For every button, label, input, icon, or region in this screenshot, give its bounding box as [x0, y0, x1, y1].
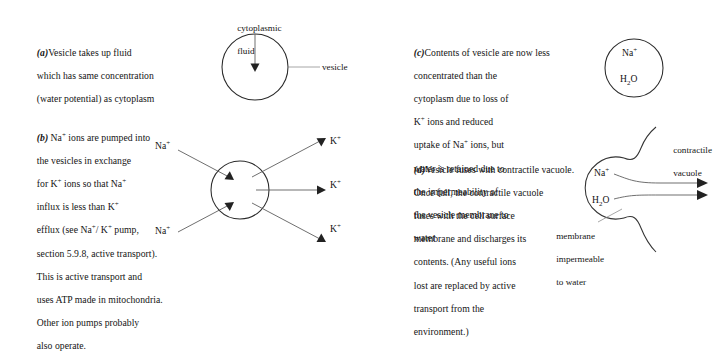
sodium-discharge-arrow-head: [697, 178, 708, 188]
panel-d-line-6: lost are replaced by active: [414, 280, 516, 291]
panel-d-line-8: environment.): [414, 326, 469, 337]
vacuole-membrane-upper: [624, 127, 656, 160]
water-discharge-arrow-shaft: [614, 195, 700, 199]
water-discharge-arrow-head: [697, 190, 708, 200]
panel-d-line-7: transport from the: [414, 303, 484, 314]
sodium-discharge-arrow-shaft: [614, 174, 700, 183]
panel-b-line-7: This is active transport and: [37, 271, 142, 282]
panel-b-line-8: uses ATP made in mitochondria.: [37, 294, 163, 305]
panel-b-line-10: also operate.: [37, 340, 86, 351]
panel-b-line-9: Other ion pumps probably: [37, 317, 139, 328]
membrane-label-line-3: to water: [556, 277, 586, 287]
vesicle-body-d: [585, 157, 624, 219]
vacuole-membrane-lower: [624, 216, 656, 252]
